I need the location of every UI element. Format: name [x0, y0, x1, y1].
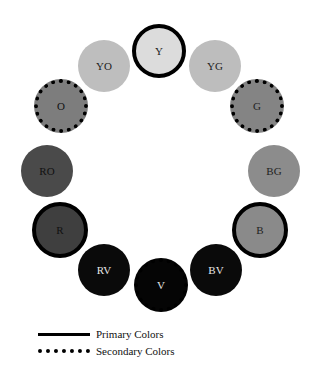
- swatch-label: Y: [155, 45, 163, 57]
- solid-line-icon: [38, 333, 90, 336]
- swatch-green: G: [230, 79, 284, 133]
- swatch-yellow-green: YG: [189, 40, 241, 92]
- swatch-label: B: [256, 224, 263, 236]
- swatch-label: YG: [207, 60, 223, 72]
- swatch-orange: O: [34, 79, 88, 133]
- swatch-red-violet: RV: [78, 244, 130, 296]
- legend-secondary: Secondary Colors: [38, 343, 175, 359]
- color-wheel: YYGGBGBBVVRVRROOYO: [0, 0, 315, 377]
- swatch-label: G: [253, 100, 261, 112]
- legend-primary: Primary Colors: [38, 326, 175, 342]
- legend-secondary-label: Secondary Colors: [96, 345, 175, 357]
- swatch-label: RO: [39, 165, 54, 177]
- swatch-yellow: Y: [132, 24, 186, 78]
- swatch-blue-green: BG: [248, 145, 300, 197]
- swatch-label: YO: [96, 60, 112, 72]
- legend-primary-label: Primary Colors: [96, 328, 164, 340]
- swatch-red-orange: RO: [21, 145, 73, 197]
- swatch-red: R: [32, 202, 88, 258]
- swatch-label: BG: [266, 165, 281, 177]
- swatch-label: BV: [208, 264, 223, 276]
- swatch-label: RV: [97, 264, 111, 276]
- swatch-label: V: [157, 279, 165, 291]
- swatch-blue: B: [232, 202, 288, 258]
- dotted-line-icon: [38, 349, 90, 353]
- swatch-yellow-orange: YO: [78, 40, 130, 92]
- swatch-violet: V: [134, 258, 188, 312]
- swatch-label: R: [56, 224, 63, 236]
- swatch-label: O: [57, 100, 65, 112]
- swatch-blue-violet: BV: [190, 244, 242, 296]
- legend: Primary Colors Secondary Colors: [38, 326, 175, 360]
